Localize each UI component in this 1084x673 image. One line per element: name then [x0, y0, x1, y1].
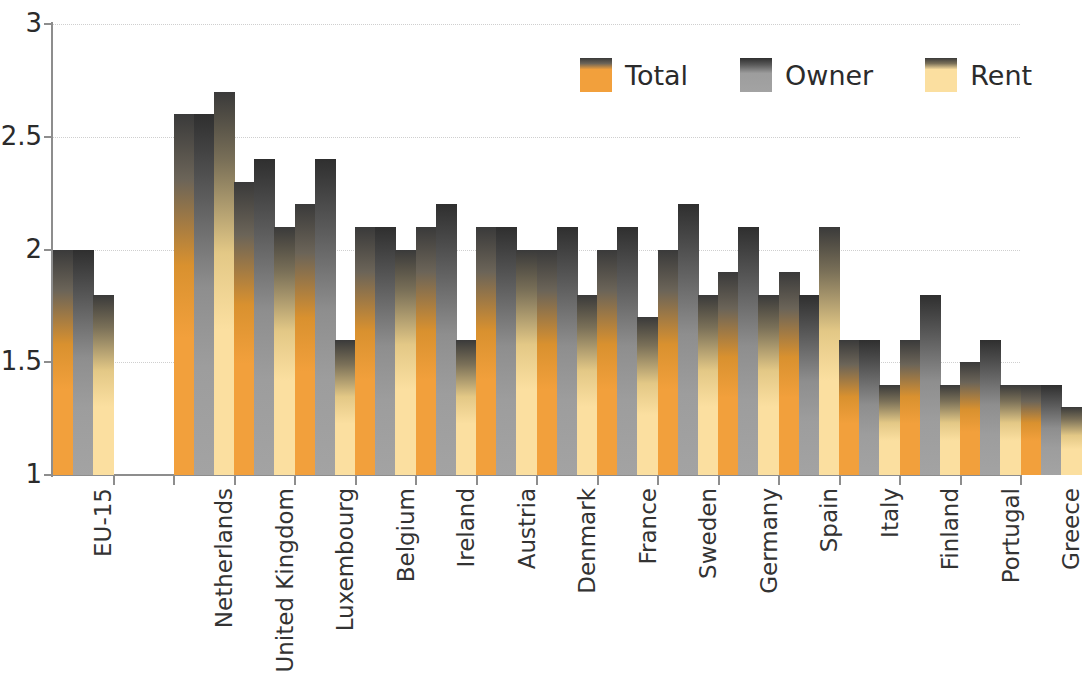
bar-rent-netherlands [214, 92, 235, 475]
bar-owner-netherlands [194, 114, 215, 475]
bar-total-germany [718, 272, 739, 475]
bar-rent-sweden [698, 295, 719, 475]
bar-total-italy [839, 340, 860, 475]
y-axis-label: 1 [0, 461, 42, 487]
x-axis-label: Luxembourg [334, 488, 357, 631]
bar-total-austria [476, 227, 497, 475]
y-axis-label: 3 [0, 10, 42, 36]
bar-rent-eu-15 [93, 295, 114, 475]
bar-rent-luxembourg [335, 340, 356, 475]
legend-item-total[interactable]: Total [580, 58, 688, 92]
bar-total-spain [779, 272, 800, 475]
bar-owner-belgium [375, 227, 396, 475]
bar-rent-spain [819, 227, 840, 475]
x-axis-label: Italy [879, 488, 902, 538]
bar-rent-italy [879, 385, 900, 475]
legend-item-rent[interactable]: Rent [925, 58, 1032, 92]
bar-total-united-kingdom [234, 182, 255, 475]
bar-owner-sweden [678, 204, 699, 475]
x-tick-mark [234, 475, 236, 485]
bar-owner-italy [859, 340, 880, 475]
bar-owner-austria [496, 227, 517, 475]
bar-total-finland [900, 340, 921, 475]
bar-total-belgium [355, 227, 376, 475]
x-axis-label: Netherlands [213, 488, 236, 628]
x-axis-label: Sweden [697, 488, 720, 579]
x-axis-label: France [637, 488, 660, 564]
y-tick-mark [44, 361, 53, 363]
x-axis-label: Finland [939, 488, 962, 570]
legend-label-owner: Owner [785, 62, 873, 89]
x-tick-mark [778, 475, 780, 485]
x-tick-mark [899, 475, 901, 485]
bar-rent-belgium [395, 250, 416, 476]
y-tick-mark [44, 249, 53, 251]
legend-label-rent: Rent [970, 62, 1032, 89]
bar-total-eu-15 [53, 250, 74, 476]
bar-total-sweden [658, 250, 679, 476]
bar-owner-luxembourg [315, 159, 336, 475]
x-tick-mark [355, 475, 357, 485]
x-axis-label: Ireland [455, 488, 478, 568]
x-axis-label: Denmark [576, 488, 599, 594]
bar-owner-united-kingdom [254, 159, 275, 475]
bar-owner-germany [738, 227, 759, 475]
bar-owner-ireland [436, 204, 457, 475]
chart-legend: TotalOwnerRent [580, 58, 1032, 92]
y-tick-mark [44, 136, 53, 138]
bar-rent-france [637, 317, 658, 475]
bar-rent-united-kingdom [274, 227, 295, 475]
x-axis-label: Spain [818, 488, 841, 552]
bar-rent-portugal [1000, 385, 1021, 475]
y-axis-label: 2 [0, 236, 42, 262]
x-axis-label: Portugal [1000, 488, 1023, 583]
bar-total-netherlands [174, 114, 195, 475]
x-tick-mark [173, 475, 175, 485]
legend-swatch-rent [925, 58, 957, 92]
x-tick-mark [536, 475, 538, 485]
x-axis-label: EU-15 [92, 488, 115, 557]
bar-total-luxembourg [295, 204, 316, 475]
legend-swatch-total [580, 58, 612, 92]
bar-rent-ireland [456, 340, 477, 475]
y-axis-label: 1.5 [0, 348, 42, 374]
x-axis-label: Germany [758, 488, 781, 594]
legend-swatch-owner [740, 58, 772, 92]
x-tick-mark [597, 475, 599, 485]
y-tick-mark [44, 474, 53, 476]
y-tick-mark [44, 23, 53, 25]
x-tick-mark [294, 475, 296, 485]
legend-item-owner[interactable]: Owner [740, 58, 873, 92]
bar-rent-denmark [577, 295, 598, 475]
bar-rent-greece [1061, 407, 1082, 475]
bar-owner-eu-15 [73, 250, 94, 476]
bar-owner-denmark [557, 227, 578, 475]
bar-total-ireland [416, 227, 437, 475]
x-axis-label: Austria [516, 488, 539, 569]
bar-owner-finland [920, 295, 941, 475]
bar-total-denmark [537, 250, 558, 476]
bar-rent-germany [758, 295, 779, 475]
bar-owner-spain [799, 295, 820, 475]
gridline [52, 24, 1020, 26]
x-tick-mark [113, 475, 115, 485]
legend-label-total: Total [625, 62, 688, 89]
x-tick-mark [718, 475, 720, 485]
bar-total-portugal [960, 362, 981, 475]
x-tick-mark [657, 475, 659, 485]
x-axis-label: Greece [1060, 488, 1083, 570]
bar-rent-austria [516, 250, 537, 476]
x-tick-mark [1020, 475, 1022, 485]
x-axis-label: Belgium [395, 488, 418, 582]
bar-owner-portugal [980, 340, 1001, 475]
x-tick-mark [839, 475, 841, 485]
bar-owner-greece [1041, 385, 1062, 475]
bar-rent-finland [940, 385, 961, 475]
x-tick-mark [415, 475, 417, 485]
bar-total-france [597, 250, 618, 476]
x-tick-mark [960, 475, 962, 485]
y-axis-label: 2.5 [0, 123, 42, 149]
x-axis-label: United Kingdom [274, 488, 297, 673]
bar-total-greece [1021, 385, 1042, 475]
